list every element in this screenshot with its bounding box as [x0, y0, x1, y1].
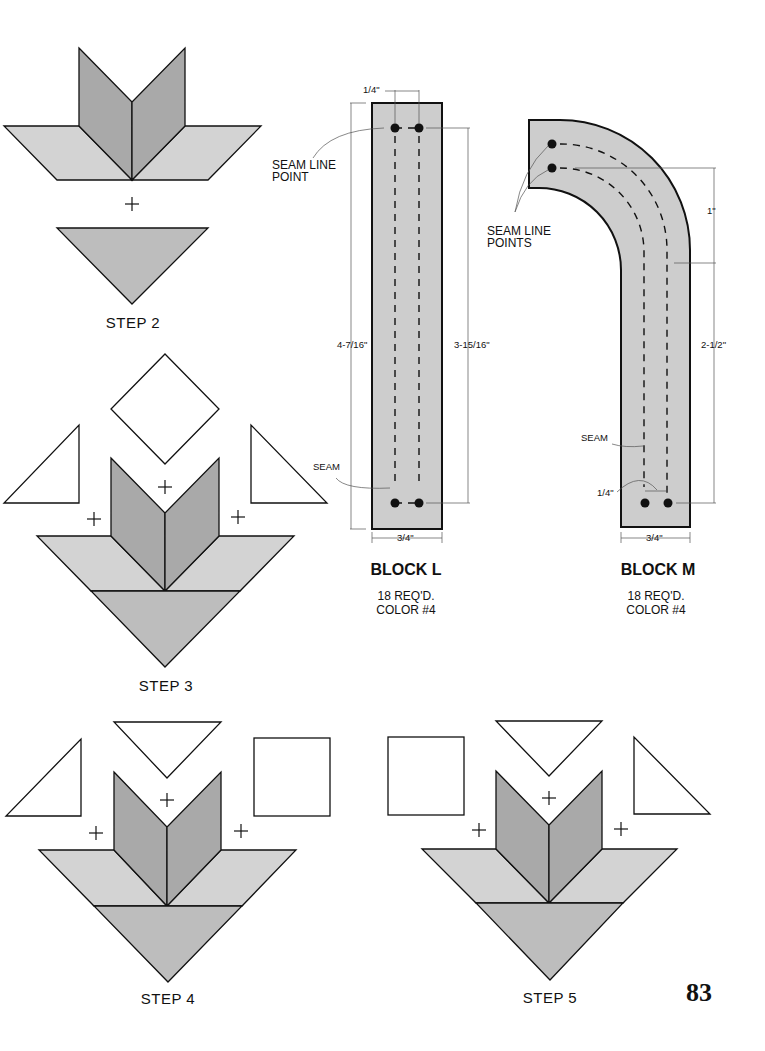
block-m-dim-width: 3/4": [646, 532, 663, 543]
block-l-seam-label: SEAM: [313, 461, 340, 472]
step-2-label: STEP 2: [106, 314, 160, 331]
block-l-dim-total-length: 4-7/16": [337, 339, 367, 350]
plus-icon: [87, 512, 101, 526]
step-5-diagram: [388, 721, 710, 980]
block-m-dim-straight: 2-1/2": [701, 339, 726, 350]
block-m-dim-seam-allowance: 1/4": [597, 487, 614, 498]
plus-icon: [542, 791, 556, 805]
plus-icon: [158, 480, 172, 494]
step-3-diagram: [4, 354, 327, 667]
white-triangle-top: [496, 721, 602, 776]
plus-icon: [614, 822, 628, 836]
block-l-required: 18 REQ'D.: [378, 589, 435, 603]
white-triangle-top: [114, 722, 221, 778]
block-l-seam-line-point-label-2: POINT: [272, 171, 309, 183]
plus-icon: [89, 826, 103, 840]
plus-icon: [125, 197, 139, 211]
step-2-diagram: [4, 48, 261, 304]
white-square: [388, 737, 464, 815]
bottom-triangle: [94, 906, 242, 982]
seam-line-point: [415, 499, 424, 508]
block-l-dim-seam-allowance: 1/4": [363, 84, 380, 95]
seam-line-point: [391, 124, 400, 133]
step-4-label: STEP 4: [141, 990, 195, 1007]
block-m-strip: [529, 120, 690, 527]
block-l-strip: [372, 103, 442, 529]
step-4-diagram: [6, 722, 330, 982]
step-5-label: STEP 5: [523, 989, 577, 1006]
plus-icon: [160, 793, 174, 807]
bottom-triangle: [57, 228, 208, 304]
white-triangle-right: [634, 737, 710, 814]
block-m-title: BLOCK M: [621, 561, 696, 579]
white-square-diamond: [111, 354, 219, 464]
plus-icon: [231, 510, 245, 524]
block-l-color: COLOR #4: [376, 603, 435, 617]
block-m-seam-label: SEAM: [581, 432, 608, 443]
block-l-title: BLOCK L: [370, 561, 441, 579]
block-l-dim-width: 3/4": [397, 532, 414, 543]
seam-line-point: [664, 499, 673, 508]
white-triangle-left: [4, 425, 79, 503]
step-3-label: STEP 3: [139, 677, 193, 694]
page-number: 83: [686, 978, 712, 1008]
seam-line-point: [641, 499, 650, 508]
plus-icon: [234, 824, 248, 838]
white-square: [254, 738, 330, 816]
bottom-triangle: [476, 903, 623, 980]
block-m-color: COLOR #4: [626, 603, 685, 617]
block-l-diagram: [313, 90, 470, 543]
seam-line-point: [391, 499, 400, 508]
plus-icon: [472, 823, 486, 837]
white-triangle-left: [6, 739, 81, 816]
block-l-dim-seam-length: 3-15/16": [454, 339, 490, 350]
block-m-diagram: [515, 120, 716, 543]
bottom-triangle: [91, 591, 240, 667]
seam-line-point: [548, 164, 557, 173]
seam-line-point: [548, 140, 557, 149]
pattern-diagram-canvas: [0, 0, 765, 1051]
block-m-dim-curve: 1": [707, 205, 716, 216]
block-m-seam-line-points-label-2: POINTS: [487, 237, 532, 249]
seam-line-point: [415, 124, 424, 133]
block-m-required: 18 REQ'D.: [628, 589, 685, 603]
